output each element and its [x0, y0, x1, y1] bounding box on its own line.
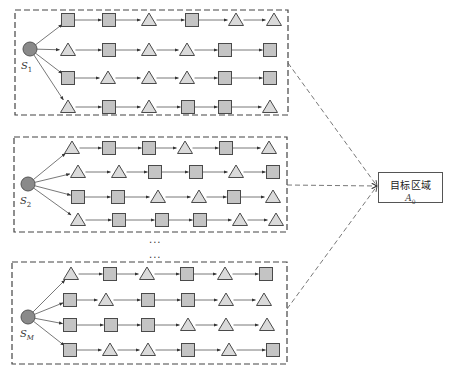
- triangle-node-icon: [64, 267, 79, 280]
- triangle-node-icon: [151, 190, 166, 203]
- triangle-node-icon: [142, 71, 157, 84]
- source-label-main: S: [21, 60, 28, 71]
- square-node-icon: [142, 294, 155, 307]
- square-node-icon: [181, 268, 194, 281]
- square-node-icon: [219, 44, 232, 57]
- triangle-node-icon: [99, 293, 114, 306]
- fan-edge: [34, 55, 64, 100]
- square-node-icon: [149, 166, 162, 179]
- source-label-subscript: 2: [27, 201, 31, 209]
- triangle-node-icon: [233, 213, 248, 226]
- square-node-icon: [112, 191, 125, 204]
- square-node-icon: [143, 142, 156, 155]
- triangle-node-icon: [142, 100, 157, 113]
- square-node-icon: [64, 294, 77, 307]
- triangle-node-icon: [266, 190, 281, 203]
- source-node-icon: [21, 310, 35, 324]
- square-node-icon: [194, 214, 207, 227]
- square-node-icon: [264, 44, 277, 57]
- triangle-node-icon: [180, 43, 195, 56]
- source-label-s1: S1: [21, 60, 32, 74]
- source-label-s2: S2: [20, 195, 31, 209]
- fan-edge: [33, 280, 65, 312]
- triangle-node-icon: [101, 71, 116, 84]
- triangle-node-icon: [219, 293, 234, 306]
- square-node-icon: [104, 268, 117, 281]
- source-block-s1: [15, 10, 288, 115]
- square-node-icon: [103, 101, 116, 114]
- square-node-icon: [64, 319, 77, 332]
- dashed-arrow-to-target: [287, 185, 377, 186]
- square-node-icon: [64, 344, 77, 357]
- target-region-symbol: A0: [379, 193, 442, 205]
- square-node-icon: [260, 268, 273, 281]
- fan-edge: [33, 153, 65, 179]
- triangle-node-icon: [229, 165, 244, 178]
- source-block-sm: [12, 262, 287, 364]
- square-node-icon: [190, 166, 203, 179]
- source-label-subscript: 1: [28, 66, 32, 74]
- square-node-icon: [103, 142, 116, 155]
- triangle-node-icon: [229, 13, 244, 26]
- triangle-node-icon: [180, 71, 195, 84]
- target-region-box: 目标区域 A0: [378, 172, 443, 203]
- fan-edge: [35, 318, 63, 323]
- square-node-icon: [267, 166, 280, 179]
- square-node-icon: [186, 14, 199, 27]
- triangle-node-icon: [71, 165, 86, 178]
- dashed-arrow-to-target: [288, 63, 377, 186]
- source-label-main: S: [20, 195, 27, 206]
- square-node-icon: [142, 319, 155, 332]
- fan-edge: [36, 25, 62, 45]
- square-node-icon: [105, 319, 118, 332]
- triangle-node-icon: [142, 43, 157, 56]
- source-block-s2: [14, 137, 287, 232]
- triangle-node-icon: [260, 318, 275, 331]
- source-label-subscript: M: [27, 334, 34, 342]
- triangle-node-icon: [103, 343, 118, 356]
- triangle-node-icon: [61, 43, 76, 56]
- triangle-node-icon: [269, 213, 284, 226]
- source-node-icon: [21, 177, 35, 191]
- triangle-node-icon: [192, 190, 207, 203]
- triangle-node-icon: [222, 343, 237, 356]
- square-node-icon: [219, 72, 232, 85]
- square-node-icon: [62, 72, 75, 85]
- triangle-node-icon: [219, 318, 234, 331]
- square-node-icon: [62, 14, 75, 27]
- square-node-icon: [156, 214, 169, 227]
- square-node-icon: [264, 72, 277, 85]
- source-label-main: S: [20, 328, 27, 339]
- fan-edge: [34, 188, 71, 215]
- triangle-node-icon: [178, 141, 193, 154]
- square-node-icon: [113, 214, 126, 227]
- target-symbol-subscript: 0: [412, 198, 416, 205]
- square-node-icon: [228, 191, 241, 204]
- square-node-icon: [219, 101, 232, 114]
- triangle-node-icon: [141, 343, 156, 356]
- ellipsis-more-sources: ...: [149, 252, 162, 258]
- fan-edge: [35, 174, 70, 182]
- fan-edge: [34, 303, 63, 315]
- triangle-node-icon: [257, 293, 272, 306]
- triangle-node-icon: [65, 141, 80, 154]
- fan-edge: [35, 186, 71, 195]
- source-label-sm: SM: [20, 328, 34, 342]
- triangle-node-icon: [140, 267, 155, 280]
- source-node-icon: [23, 42, 37, 56]
- triangle-node-icon: [142, 13, 157, 26]
- square-node-icon: [182, 344, 195, 357]
- square-node-icon: [103, 14, 116, 27]
- square-node-icon: [220, 142, 233, 155]
- target-region-label: 目标区域: [379, 177, 442, 192]
- square-node-icon: [182, 294, 195, 307]
- triangle-node-icon: [61, 100, 76, 113]
- fan-edge: [37, 49, 60, 50]
- square-node-icon: [103, 44, 116, 57]
- square-node-icon: [72, 191, 85, 204]
- triangle-node-icon: [262, 141, 277, 154]
- source-blocks: [12, 10, 288, 364]
- triangle-node-icon: [112, 165, 127, 178]
- ellipsis-more-sources: ...: [149, 237, 162, 243]
- square-node-icon: [267, 344, 280, 357]
